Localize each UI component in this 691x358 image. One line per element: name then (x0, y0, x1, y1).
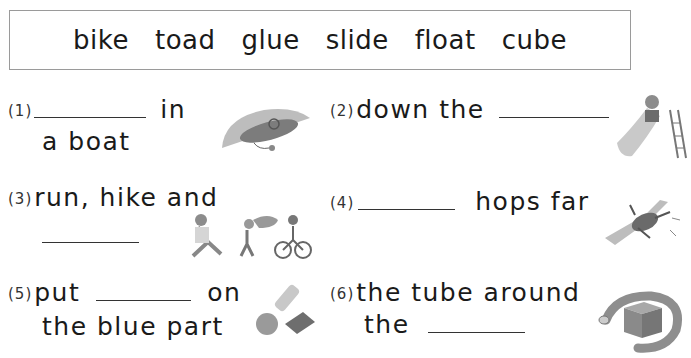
item-text: the blue part (8, 312, 241, 341)
item-number: (1) (8, 102, 32, 120)
word-bank-word: float (415, 25, 476, 55)
tube-around-cube-icon (596, 290, 686, 354)
exercise-item-6: (6)the tube around the (330, 278, 580, 339)
glue-bottle-icon (255, 282, 317, 338)
item-text: run, hike and (34, 183, 218, 212)
item-number: (2) (330, 102, 354, 120)
exercise-item-5: (5)puton the blue part (8, 278, 241, 341)
run-hike-bike-icon (183, 212, 313, 262)
item-text: in (160, 95, 186, 124)
item-text: put (34, 278, 80, 307)
exercise-item-4: (4)hops far (330, 187, 590, 218)
answer-blank[interactable] (499, 116, 609, 118)
word-bank-word: glue (242, 25, 300, 55)
item-text: hops far (475, 187, 589, 216)
boat-floating-icon (214, 98, 314, 158)
toad-hopping-icon (600, 190, 690, 250)
word-bank: bike toad glue slide float cube (9, 10, 631, 70)
exercise-item-2: (2)down the (330, 95, 615, 126)
item-number: (6) (330, 285, 354, 303)
answer-blank[interactable] (358, 208, 455, 210)
answer-blank[interactable] (96, 299, 191, 301)
answer-blank[interactable] (428, 331, 525, 333)
item-number: (3) (8, 190, 32, 208)
item-text: on (207, 278, 241, 307)
exercise-item-1: (1)in a boat (8, 95, 186, 156)
answer-blank[interactable] (34, 116, 146, 118)
item-text: the (364, 310, 410, 339)
child-on-slide-icon (612, 88, 687, 160)
answer-blank[interactable] (42, 241, 139, 243)
item-text: down the (356, 95, 484, 124)
item-text: the tube around (356, 278, 580, 307)
word-bank-word: toad (155, 25, 216, 55)
word-bank-word: slide (326, 25, 389, 55)
item-number: (5) (8, 285, 32, 303)
word-bank-word: bike (73, 25, 129, 55)
item-number: (4) (330, 194, 354, 212)
word-bank-word: cube (502, 25, 567, 55)
item-text: a boat (8, 127, 186, 156)
